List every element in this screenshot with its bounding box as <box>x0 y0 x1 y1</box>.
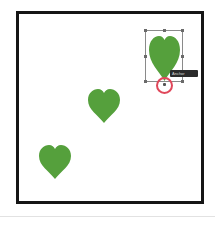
resize-handle-bottom-right[interactable] <box>181 80 184 83</box>
heart-middle[interactable] <box>86 88 122 124</box>
resize-handle-top-left[interactable] <box>144 29 147 32</box>
bottom-divider <box>0 216 215 217</box>
heart-shape-icon <box>86 88 122 124</box>
resize-handle-middle-left[interactable] <box>144 55 147 58</box>
anchor-point-handle[interactable] <box>163 83 166 86</box>
resize-handle-middle-right[interactable] <box>181 55 184 58</box>
heart-shape-icon <box>37 144 73 180</box>
heart-bottom-left[interactable] <box>37 144 73 180</box>
resize-handle-bottom-left[interactable] <box>144 80 147 83</box>
resize-handle-top-center[interactable] <box>163 29 166 32</box>
tooltip-label: Anchor <box>172 71 185 76</box>
resize-handle-top-right[interactable] <box>181 29 184 32</box>
anchor-tooltip: Anchor <box>170 70 198 77</box>
